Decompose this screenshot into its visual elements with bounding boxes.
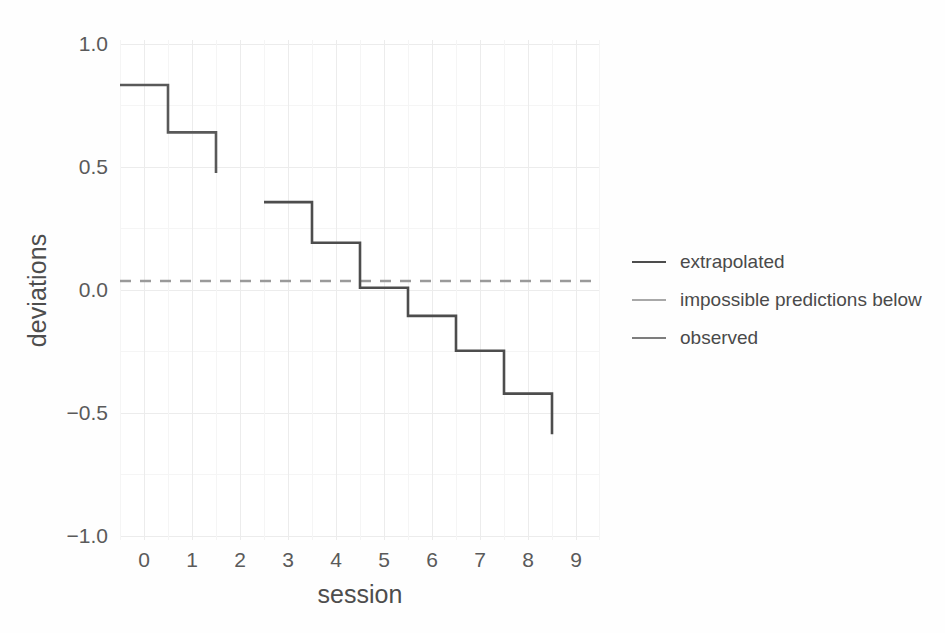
legend-line-icon [632, 293, 666, 307]
chart-legend: extrapolated impossible predictions belo… [632, 243, 932, 357]
x-tick-label: 2 [220, 548, 260, 572]
legend-item-label: impossible predictions below [680, 289, 922, 311]
y-axis-tick-labels: 1.0 0.5 0.0 −0.5 −1.0 [40, 0, 108, 633]
x-tick-label: 6 [412, 548, 452, 572]
step-line-extrapolated [264, 202, 552, 434]
x-tick-label: 1 [172, 548, 212, 572]
y-tick-label: 0.5 [48, 155, 108, 179]
legend-line-icon [632, 255, 666, 269]
x-tick-label: 0 [124, 548, 164, 572]
x-tick-label: 4 [316, 548, 356, 572]
legend-item-observed: observed [632, 319, 932, 357]
chart-figure: deviations 1.0 0.5 0.0 −0.5 −1.0 [0, 0, 945, 633]
x-tick-label: 5 [364, 548, 404, 572]
x-tick-label: 9 [556, 548, 596, 572]
y-tick-label: 1.0 [48, 32, 108, 56]
legend-item-extrapolated: extrapolated [632, 243, 932, 281]
y-tick-label: 0.0 [48, 278, 108, 302]
x-tick-label: 7 [460, 548, 500, 572]
y-tick-label: −1.0 [48, 524, 108, 548]
legend-line-icon [632, 331, 666, 345]
x-tick-label: 3 [268, 548, 308, 572]
legend-item-label: observed [680, 327, 758, 349]
legend-item-impossible-predictions: impossible predictions below [632, 281, 932, 319]
y-tick-label: −0.5 [48, 401, 108, 425]
step-line-observed [120, 85, 216, 173]
x-tick-label: 8 [508, 548, 548, 572]
legend-item-label: extrapolated [680, 251, 785, 273]
x-axis-title: session [120, 580, 600, 609]
plot-panel [120, 40, 600, 540]
data-layer [120, 40, 600, 540]
